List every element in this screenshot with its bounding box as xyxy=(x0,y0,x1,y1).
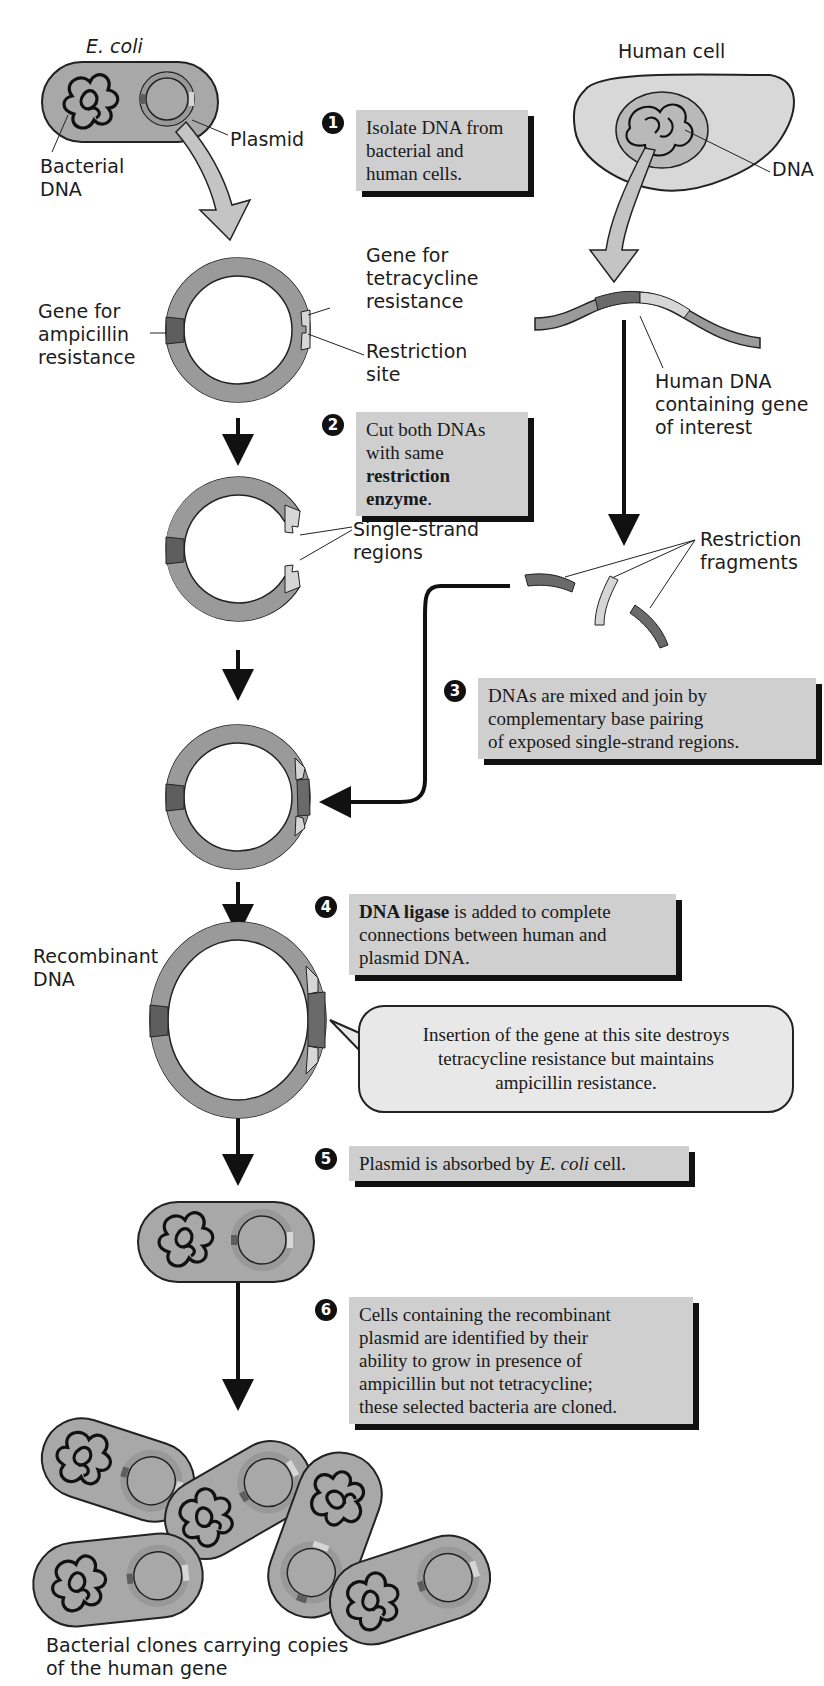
insertion-callout: Insertion of the gene at this site destr… xyxy=(358,1005,794,1113)
plasmid-recombinant xyxy=(150,922,326,1118)
step-6: 6 Cells containing the recombinant plasm… xyxy=(315,1297,693,1424)
step-5-text-plain: Plasmid is absorbed by xyxy=(359,1153,540,1174)
step-2-text-plain: Cut both DNAs with same xyxy=(366,419,485,463)
step-6-text: Cells containing the recombinant plasmid… xyxy=(349,1297,693,1424)
step-number-1: 1 xyxy=(322,112,344,134)
label-single-strand: Single-strand regions xyxy=(353,518,479,564)
step-number-3: 3 xyxy=(444,680,466,702)
step-4-text: DNA ligase is added to complete connecti… xyxy=(349,894,676,975)
plasmid-joined xyxy=(166,725,310,869)
step-1: 1 Isolate DNA from bacterial and human c… xyxy=(322,110,528,191)
step-number-4: 4 xyxy=(315,896,337,918)
label-human-dna: Human DNA containing gene of interest xyxy=(655,370,808,439)
label-gene-tetracycline: Gene for tetracycline resistance xyxy=(366,244,478,313)
step-number-5: 5 xyxy=(315,1148,337,1170)
step-number-2: 2 xyxy=(322,414,344,436)
plasmid-intact xyxy=(150,258,364,402)
step-4: 4 DNA ligase is added to complete connec… xyxy=(315,894,676,975)
step-number-6: 6 xyxy=(315,1299,337,1321)
step-2: 2 Cut both DNAs with same restriction en… xyxy=(322,412,528,516)
ecoli-cell xyxy=(42,62,228,152)
human-cell xyxy=(574,74,794,190)
label-human-cell: Human cell xyxy=(618,40,725,63)
label-dna: DNA xyxy=(772,158,814,181)
label-bacterial-dna: Bacterial DNA xyxy=(40,155,124,201)
step-5: 5 Plasmid is absorbed by E. coli cell. xyxy=(315,1146,689,1181)
step-2-text-bold: restriction enzyme xyxy=(366,465,450,509)
step-1-text: Isolate DNA from bacterial and human cel… xyxy=(356,110,528,191)
label-restriction-site: Restriction site xyxy=(366,340,467,386)
label-bacterial-clones: Bacterial clones carrying copies of the … xyxy=(46,1634,348,1680)
step-5-text: Plasmid is absorbed by E. coli cell. xyxy=(349,1146,689,1181)
label-plasmid: Plasmid xyxy=(230,128,304,151)
step-4-text-bold: DNA ligase xyxy=(359,901,449,922)
restriction-fragments xyxy=(525,540,695,648)
bacterial-clones xyxy=(29,1408,501,1655)
label-recombinant-dna: Recombinant DNA xyxy=(33,945,158,991)
step-5-text-tail: cell. xyxy=(589,1153,626,1174)
step-2-text: Cut both DNAs with same restriction enzy… xyxy=(356,412,528,516)
label-restriction-fragments: Restriction fragments xyxy=(700,528,801,574)
step-3: 3 DNAs are mixed and join by complementa… xyxy=(444,678,816,759)
step-2-text-tail: . xyxy=(427,488,432,509)
step-5-text-italic: E. coli xyxy=(540,1153,590,1174)
human-dna-strand xyxy=(535,291,760,368)
step-3-text: DNAs are mixed and join by complementary… xyxy=(478,678,816,759)
label-gene-ampicillin: Gene for ampicillin resistance xyxy=(38,300,135,369)
transformed-cell xyxy=(138,1202,314,1282)
label-ecoli: E. coli xyxy=(86,35,143,58)
